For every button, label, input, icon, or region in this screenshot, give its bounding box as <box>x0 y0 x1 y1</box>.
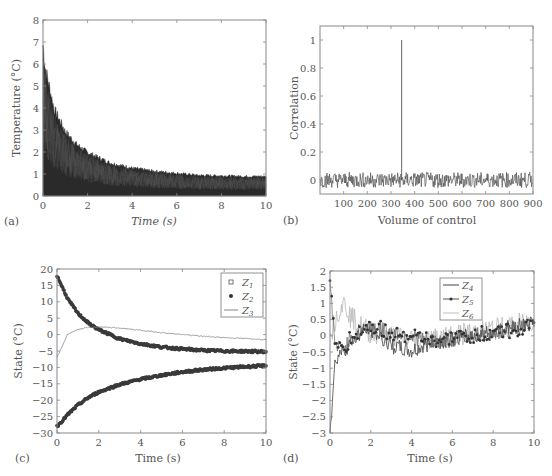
series-z1 <box>55 363 268 428</box>
x-tick-label: 100 <box>334 198 353 209</box>
y-tick-label: 6 <box>33 59 39 70</box>
x-tick-label: 500 <box>429 198 448 209</box>
x-tick-label: 4 <box>129 200 135 211</box>
y-tick-label: −5 <box>38 346 53 357</box>
y-tick-label: 1 <box>310 35 316 46</box>
x-tick-label: 400 <box>405 198 424 209</box>
panel-a-temperature-chart: 0246810012345678 Time (s) Temperature (°… <box>4 15 272 229</box>
y-tick-label: −10 <box>32 362 53 373</box>
panel-d-state-chart: 0246810−3−2.5−2−1.5−1−0.500.511.52 Z4 Z5… <box>283 266 540 466</box>
x-tick-label: 8 <box>490 437 496 448</box>
temperature-trace <box>43 69 266 190</box>
y-tick-label: 5 <box>47 313 53 324</box>
panel-a-traces <box>43 45 266 196</box>
y-tick-label: 1.5 <box>310 282 326 293</box>
x-tick-label: 6 <box>449 437 455 448</box>
y-tick-label: 2 <box>320 266 326 277</box>
panel-d-xlabel: Time (s) <box>407 452 453 465</box>
panel-d-ylabel: State (°C) <box>287 324 300 379</box>
y-tick-label: 20 <box>40 264 53 275</box>
y-tick-label: 2 <box>33 147 39 158</box>
x-tick-label: 600 <box>452 198 471 209</box>
y-tick-label: 4 <box>33 103 39 114</box>
y-tick-label: 0 <box>47 329 53 340</box>
y-tick-label: −2 <box>311 395 326 406</box>
y-tick-label: −30 <box>32 428 53 439</box>
x-tick-label: 200 <box>358 198 377 209</box>
y-tick-label: 7 <box>33 37 39 48</box>
x-tick-label: 10 <box>260 200 273 211</box>
y-tick-label: −20 <box>32 395 53 406</box>
panel-d-ticks: 0246810−3−2.5−2−1.5−1−0.500.511.52 <box>302 266 541 449</box>
x-tick-label: 2 <box>368 437 374 448</box>
x-tick-label: 8 <box>221 437 227 448</box>
figure-canvas: 0246810012345678 Time (s) Temperature (°… <box>0 0 552 476</box>
x-tick-label: 700 <box>476 198 495 209</box>
dot-marker-icon <box>449 297 452 300</box>
panel-c-ylabel: State (°C) <box>12 323 25 378</box>
panel-b-axes-frame <box>320 26 533 194</box>
y-tick-label: 0.5 <box>310 314 326 325</box>
x-tick-label: 10 <box>528 437 541 448</box>
y-tick-label: 10 <box>40 296 53 307</box>
panel-a-tag: (a) <box>4 215 19 228</box>
panel-b-ylabel: Correlation <box>288 76 301 140</box>
x-tick-label: 300 <box>381 198 400 209</box>
y-tick-label: 1 <box>320 298 326 309</box>
y-tick-label: 0.4 <box>300 119 316 130</box>
panel-d-axes-frame <box>330 271 534 433</box>
dot-marker-icon <box>229 294 233 298</box>
x-tick-label: 2 <box>96 437 102 448</box>
y-tick-label: 0.2 <box>300 147 316 158</box>
y-tick-label: 5 <box>33 81 39 92</box>
x-tick-label: 2 <box>84 200 90 211</box>
y-tick-label: −25 <box>32 411 53 422</box>
panel-b-xlabel: Volume of control <box>377 214 477 227</box>
correlation-trace <box>320 172 533 188</box>
panel-d-traces <box>329 279 536 433</box>
x-tick-label: 0 <box>40 200 46 211</box>
x-tick-label: 900 <box>523 198 542 209</box>
panel-c-legend: Z1 Z2 Z3 <box>221 273 263 318</box>
y-tick-label: 3 <box>33 125 39 136</box>
panel-d-legend: Z4 Z5 Z6 <box>440 278 482 321</box>
x-tick-label: 800 <box>500 198 519 209</box>
x-tick-label: 6 <box>179 437 185 448</box>
panel-a-xlabel: Time (s) <box>131 215 177 228</box>
panel-c-state-chart: 0246810−30−25−20−15−10−505101520 Z1 Z2 Z… <box>12 264 272 466</box>
y-tick-label: −0.5 <box>302 347 326 358</box>
x-tick-label: 8 <box>218 200 224 211</box>
panel-c-tag: (c) <box>15 452 30 465</box>
panel-b-trace <box>320 40 533 188</box>
y-tick-label: 0 <box>33 191 39 202</box>
y-tick-label: 8 <box>33 15 39 26</box>
series-z5 <box>330 281 534 352</box>
x-tick-label: 0 <box>327 437 333 448</box>
panel-b-tag: (b) <box>283 214 299 227</box>
y-tick-label: −1.5 <box>302 379 326 390</box>
y-tick-label: 0.8 <box>300 63 316 74</box>
y-tick-label: −3 <box>311 428 326 439</box>
y-tick-label: −15 <box>32 378 53 389</box>
x-tick-label: 10 <box>260 437 273 448</box>
y-tick-label: −2.5 <box>302 411 326 422</box>
y-tick-label: −1 <box>311 363 326 374</box>
panel-a-ylabel: Temperature (°C) <box>10 59 23 157</box>
y-tick-label: 0 <box>310 175 316 186</box>
x-tick-label: 6 <box>174 200 180 211</box>
panel-b-correlation-chart: 10020030040050060070080090000.20.40.60.8… <box>283 26 543 227</box>
y-tick-label: 0 <box>320 330 326 341</box>
x-tick-label: 4 <box>137 437 143 448</box>
x-tick-label: 4 <box>408 437 414 448</box>
x-tick-label: 0 <box>54 437 60 448</box>
panel-c-xlabel: Time (s) <box>135 452 181 465</box>
y-tick-label: 1 <box>33 169 39 180</box>
panel-d-tag: (d) <box>283 452 299 465</box>
y-tick-label: 0.6 <box>300 91 316 102</box>
y-tick-label: 15 <box>40 280 53 291</box>
